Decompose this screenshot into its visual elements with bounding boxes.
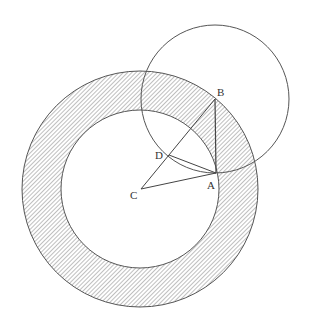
shaded-annulus xyxy=(22,71,258,307)
geometry-figure: B A C D xyxy=(0,0,309,327)
point-label-d: D xyxy=(155,149,163,161)
point-label-c: C xyxy=(130,189,137,201)
point-label-a: A xyxy=(207,179,215,191)
inner-circle xyxy=(61,110,219,268)
point-label-b: B xyxy=(217,86,224,98)
segment-da xyxy=(169,155,216,173)
